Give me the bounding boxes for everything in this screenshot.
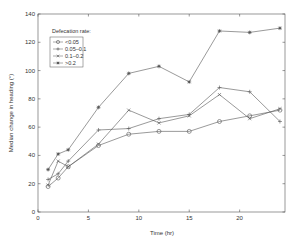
x-tick-label: 20 <box>236 215 243 221</box>
y-tick-label: 80 <box>28 96 35 102</box>
y-tick-label: 100 <box>25 68 36 74</box>
y-axis-label: Median change in heading (°) <box>8 74 14 152</box>
plus-marker-icon <box>127 127 131 131</box>
legend: Defecation rate:<0.050.05–0.10.1–0.2>0.2 <box>50 28 91 67</box>
legend-label: <0.05 <box>65 39 79 45</box>
legend-title: Defecation rate: <box>52 28 91 34</box>
x-marker-icon <box>57 159 60 162</box>
series-1 <box>46 86 282 182</box>
x-marker-icon <box>67 165 70 168</box>
plus-marker-icon <box>157 117 161 121</box>
y-tick-label: 20 <box>28 181 35 187</box>
line-chart: 05101520020406080100120140 Defecation ra… <box>0 0 301 242</box>
x-axis-label: Time (hr) <box>150 230 174 236</box>
legend-label: 0.1–0.2 <box>65 53 83 59</box>
legend-label: >0.2 <box>65 60 76 66</box>
y-tick-label: 60 <box>28 124 35 130</box>
x-tick-label: 15 <box>186 215 193 221</box>
series-line <box>48 88 280 180</box>
legend-label: 0.05–0.1 <box>65 46 86 52</box>
plus-marker-icon <box>46 177 50 181</box>
series-2 <box>46 93 281 187</box>
series-line <box>48 95 280 186</box>
x-tick-label: 0 <box>36 215 40 221</box>
y-tick-label: 40 <box>28 152 35 158</box>
x-tick-label: 10 <box>135 215 142 221</box>
series-0 <box>46 108 282 188</box>
x-tick-label: 5 <box>87 215 91 221</box>
x-marker-icon <box>127 109 130 112</box>
y-tick-label: 0 <box>32 209 36 215</box>
x-marker-icon <box>218 93 221 96</box>
y-tick-label: 120 <box>25 39 36 45</box>
y-tick-label: 140 <box>25 11 36 17</box>
